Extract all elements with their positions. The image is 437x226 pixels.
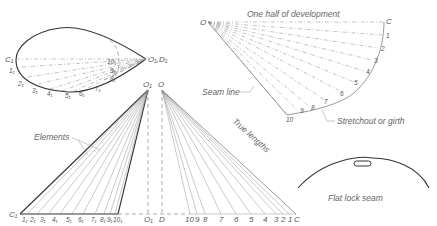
svg-text:4₁: 4₁ xyxy=(52,216,58,223)
svg-text:9₁: 9₁ xyxy=(107,216,113,223)
svg-text:2: 2 xyxy=(380,45,385,52)
svg-text:5₁: 5₁ xyxy=(66,216,72,223)
label-o1-d1: O₁,D₁ xyxy=(148,55,168,64)
development-drawing: C₁ O₁,D₁ 1₁ 2₁ 3₁ 4₁ 5₁ 6₁ 7₁ 8₁ 9₁ 10₁ … xyxy=(0,0,437,226)
label-half-development: One half of development xyxy=(247,9,340,19)
label-c-dev: C xyxy=(386,17,392,26)
svg-text:O₁: O₁ xyxy=(144,215,153,224)
svg-text:2: 2 xyxy=(280,215,286,224)
svg-text:3₁: 3₁ xyxy=(32,87,38,94)
flat-lock-seam-detail: Flat lock seam xyxy=(298,157,429,203)
label-flat-lock-seam: Flat lock seam xyxy=(328,193,383,203)
label-o-dev: O xyxy=(200,18,206,27)
label-elements: Elements xyxy=(34,132,70,142)
svg-text:9: 9 xyxy=(300,107,304,114)
svg-text:7₁: 7₁ xyxy=(91,216,97,223)
label-o1-top: O₁ xyxy=(143,80,152,89)
svg-text:8: 8 xyxy=(311,104,315,111)
svg-text:3₁: 3₁ xyxy=(40,216,46,223)
svg-text:2₁: 2₁ xyxy=(17,80,24,87)
svg-text:6₁: 6₁ xyxy=(78,216,84,223)
svg-text:C: C xyxy=(294,215,300,224)
svg-text:3: 3 xyxy=(374,57,378,64)
svg-text:4: 4 xyxy=(366,68,370,75)
label-stretchout: Stretchout or girth xyxy=(337,116,405,126)
svg-text:5₁: 5₁ xyxy=(65,92,71,99)
svg-text:6₁: 6₁ xyxy=(79,90,85,97)
svg-text:6: 6 xyxy=(234,215,239,224)
label-o-top: O xyxy=(158,80,164,89)
svg-text:2₁: 2₁ xyxy=(29,216,36,223)
svg-text:3: 3 xyxy=(274,215,279,224)
svg-text:8₁: 8₁ xyxy=(100,216,106,223)
svg-text:10: 10 xyxy=(185,215,194,224)
svg-text:8: 8 xyxy=(203,215,208,224)
label-true-lengths: True lengths xyxy=(231,116,273,155)
svg-text:6: 6 xyxy=(340,90,344,97)
svg-text:5: 5 xyxy=(354,79,358,86)
svg-text:7₁: 7₁ xyxy=(95,85,101,92)
svg-text:7: 7 xyxy=(219,215,224,224)
svg-text:1: 1 xyxy=(386,32,390,39)
svg-text:9₁: 9₁ xyxy=(110,67,116,74)
svg-text:10₁: 10₁ xyxy=(107,58,116,65)
elevation-view: O₁ O C₁ 1₁ 2₁ 3₁ 4₁ 5₁ 6₁ 7₁ 8₁ 9₁ 10₁ O… xyxy=(9,80,300,224)
svg-text:4: 4 xyxy=(263,215,268,224)
seam-fold xyxy=(354,161,371,166)
svg-text:5: 5 xyxy=(249,215,254,224)
svg-text:10₁: 10₁ xyxy=(113,216,122,223)
label-seam-line: Seam line xyxy=(202,87,240,97)
half-development: O C 1 2 3 4 5 6 7 8 9 10 One half of dev… xyxy=(200,9,405,126)
label-c1: C₁ xyxy=(5,55,14,64)
svg-text:C₁: C₁ xyxy=(9,210,18,219)
svg-text:4₁: 4₁ xyxy=(47,90,53,97)
svg-text:9: 9 xyxy=(195,215,200,224)
svg-text:D: D xyxy=(159,215,165,224)
svg-text:10: 10 xyxy=(286,116,294,123)
svg-text:1₁: 1₁ xyxy=(22,216,28,223)
svg-text:7: 7 xyxy=(324,98,328,105)
svg-text:1₁: 1₁ xyxy=(9,67,15,74)
svg-text:1: 1 xyxy=(288,215,292,224)
svg-text:8₁: 8₁ xyxy=(110,75,116,82)
